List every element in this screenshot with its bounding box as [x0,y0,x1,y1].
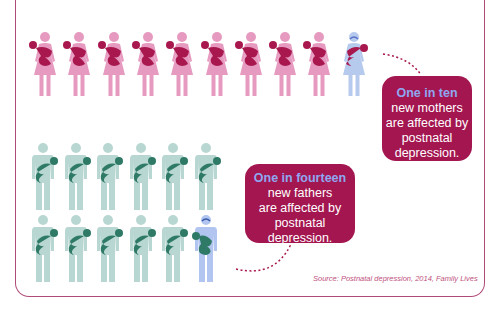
mothers-callout: One in ten new mothers are affected by p… [382,76,472,161]
mothers-connector [383,54,421,75]
mothers-callout-line: depression. [382,146,472,161]
fathers-callout-line: are affected by [245,201,355,216]
source-citation: Source: Postnatal depression, 2014, Fami… [313,274,478,283]
mothers-callout-line: new mothers [382,101,472,116]
fathers-connector [236,244,291,271]
fathers-callout-line: new fathers [245,186,355,201]
fathers-callout: One in fourteen new fathers are affected… [245,164,355,243]
mothers-callout-line: postnatal [382,131,472,146]
mothers-callout-headline: One in ten [382,86,472,101]
fathers-callout-line: depression. [245,231,355,246]
mothers-callout-line: are affected by [382,116,472,131]
fathers-callout-line: postnatal [245,216,355,231]
fathers-callout-headline: One in fourteen [245,171,355,186]
